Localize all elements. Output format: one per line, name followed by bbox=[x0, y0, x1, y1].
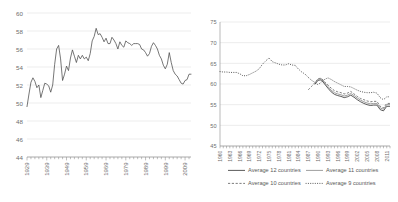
axis-tick-label: 2008 bbox=[374, 150, 380, 161]
axis-tick-label: 60 bbox=[16, 10, 23, 17]
axis-tick-label: 1996 bbox=[335, 150, 341, 161]
legend-label-average-11-countries: Average 11 countries bbox=[326, 167, 379, 173]
axis-tick-label: 1979 bbox=[123, 162, 129, 176]
right-chart-legend: Average 12 countriesAverage 11 countries… bbox=[228, 167, 379, 186]
left-plot-area: 4446485052545658601929193919491959196919… bbox=[16, 10, 191, 176]
legend-label-average-10-countries: Average 10 countries bbox=[248, 180, 301, 186]
axis-tick-label: 1993 bbox=[325, 150, 331, 161]
axis-tick-label: 1969 bbox=[246, 150, 252, 161]
legend-label-average-9-countries: Average 9 countries bbox=[326, 180, 376, 186]
axis-tick-label: 1989 bbox=[143, 162, 149, 176]
axis-tick-label: 1978 bbox=[276, 150, 282, 161]
axis-tick-label: 1987 bbox=[305, 150, 311, 161]
axis-tick-label: 52 bbox=[16, 82, 23, 89]
axis-tick-label: 2011 bbox=[384, 150, 390, 161]
axis-tick-label: 1990 bbox=[315, 150, 321, 161]
axis-tick-label: 1984 bbox=[295, 150, 301, 161]
axis-tick-label: 65 bbox=[210, 61, 216, 67]
axis-tick-label: 70 bbox=[210, 40, 216, 46]
axis-tick-label: 1969 bbox=[103, 162, 109, 176]
axis-tick-label: 2009 bbox=[182, 162, 188, 176]
axis-tick-label: 45 bbox=[210, 143, 216, 149]
axis-tick-label: 1975 bbox=[266, 150, 272, 161]
left-chart-panel: 4446485052545658601929193919491959196919… bbox=[0, 0, 198, 202]
axis-tick-label: 54 bbox=[16, 64, 23, 71]
figure-container: 4446485052545658601929193919491959196919… bbox=[0, 0, 398, 202]
legend-label-average-12-countries: Average 12 countries bbox=[248, 167, 301, 173]
axis-tick-label: 2002 bbox=[354, 150, 360, 161]
axis-tick-label: 56 bbox=[16, 46, 23, 53]
axis-tick-label: 1963 bbox=[227, 150, 233, 161]
axis-tick-label: 1949 bbox=[64, 162, 70, 176]
axis-tick-label: 50 bbox=[210, 123, 216, 129]
axis-tick-label: 1972 bbox=[256, 150, 262, 161]
right-chart-series-average-9-countries bbox=[220, 58, 390, 100]
axis-tick-label: 2005 bbox=[364, 150, 370, 161]
axis-tick-label: 48 bbox=[16, 118, 23, 125]
axis-tick-label: 60 bbox=[210, 81, 216, 87]
right-chart-panel: 4550556065707519601963196619691972197519… bbox=[198, 0, 398, 202]
axis-tick-label: 50 bbox=[16, 100, 23, 107]
axis-tick-label: 1959 bbox=[83, 162, 89, 176]
axis-tick-label: 1999 bbox=[345, 150, 351, 161]
axis-tick-label: 1960 bbox=[217, 150, 223, 161]
axis-tick-label: 44 bbox=[16, 154, 23, 161]
axis-tick-label: 1939 bbox=[44, 162, 50, 176]
axis-tick-label: 1981 bbox=[286, 150, 292, 161]
axis-tick-label: 1999 bbox=[163, 162, 169, 176]
left-chart-series-line bbox=[27, 28, 191, 106]
axis-tick-label: 46 bbox=[16, 136, 23, 143]
axis-tick-label: 55 bbox=[210, 102, 216, 108]
right-plot-area: 4550556065707519601963196619691972197519… bbox=[210, 19, 390, 161]
axis-tick-label: 1929 bbox=[24, 162, 30, 176]
axis-tick-label: 75 bbox=[210, 19, 216, 25]
axis-tick-label: 1966 bbox=[237, 150, 243, 161]
axis-tick-label: 58 bbox=[16, 28, 23, 35]
right-chart-series-average-10-countries bbox=[308, 78, 390, 108]
left-chart-svg: 4446485052545658601929193919491959196919… bbox=[0, 0, 198, 202]
right-chart-svg: 4550556065707519601963196619691972197519… bbox=[198, 0, 398, 202]
